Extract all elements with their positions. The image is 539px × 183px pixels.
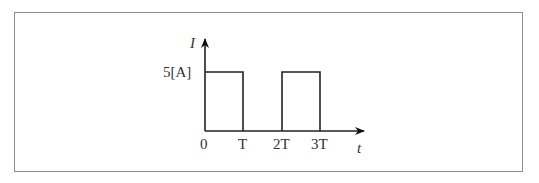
tick-label-0: 0 [200, 136, 208, 152]
current-waveform-diagram: I 5[A] 0 T 2T 3T t [0, 0, 539, 183]
pulse-2 [282, 72, 320, 131]
tick-label-T: T [238, 136, 247, 152]
pulse-1 [205, 72, 243, 131]
x-axis-label: t [357, 140, 362, 156]
tick-label-3T: 3T [311, 136, 328, 152]
y-axis-label: I [189, 35, 196, 51]
amplitude-label: 5[A] [163, 64, 191, 80]
tick-label-2T: 2T [273, 136, 290, 152]
